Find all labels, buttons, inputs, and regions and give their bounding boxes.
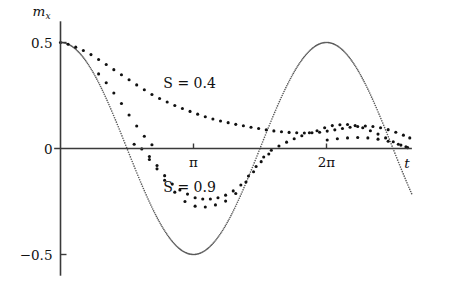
annotation-group: S = 0.4S = 0.9 <box>163 75 216 195</box>
axes-group <box>54 21 412 275</box>
x-tick-label-1: 2π <box>318 154 336 170</box>
y-tick-label-1: 0 <box>44 141 53 157</box>
y-axis-label: mx <box>33 3 51 21</box>
chart-canvas: π2π0.50−0.5tmx S = 0.4S = 0.9 <box>0 0 451 284</box>
axis-labels-group: π2π0.50−0.5tmx <box>20 3 410 263</box>
series-3 <box>97 72 407 148</box>
series-0 <box>59 41 411 140</box>
y-tick-label-2: −0.5 <box>20 247 53 263</box>
label-s-04: S = 0.4 <box>163 75 216 91</box>
x-axis-label: t <box>404 155 410 171</box>
x-tick-label-0: π <box>189 154 198 170</box>
y-tick-label-0: 0.5 <box>31 35 52 51</box>
scatter-series-group <box>59 41 411 209</box>
figure-container: π2π0.50−0.5tmx S = 0.4S = 0.9 <box>0 0 451 284</box>
label-s-09: S = 0.9 <box>163 179 216 195</box>
